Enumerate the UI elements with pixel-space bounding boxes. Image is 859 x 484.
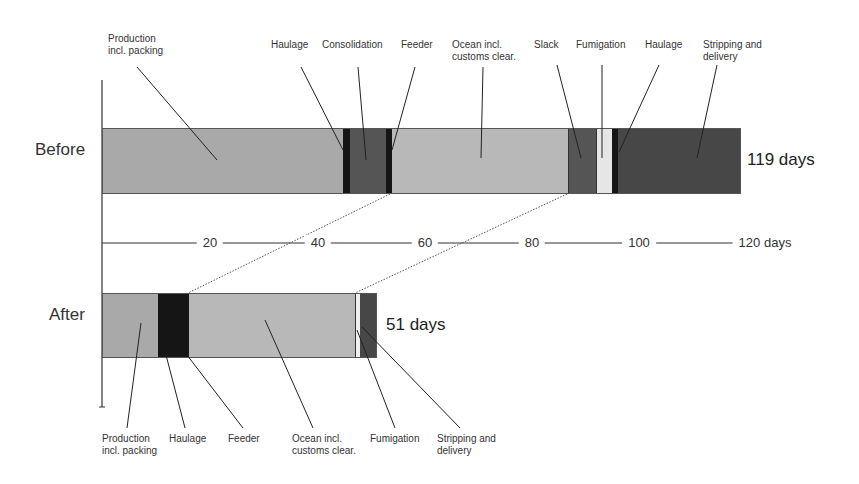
label-bottom-haulage: Haulage <box>169 433 206 445</box>
label-top-feeder: Feeder <box>401 39 433 51</box>
label-top-haulage: Haulage <box>271 39 308 51</box>
label-top-ocean: Ocean incl. customs clear. <box>452 39 516 63</box>
label-bottom-ocean: Ocean incl. customs clear. <box>292 433 356 457</box>
label-top-haulage-2: Haulage <box>645 39 682 51</box>
label-top-stripping: Stripping and delivery <box>703 39 762 63</box>
leader-lines <box>0 0 859 484</box>
label-top-slack: Slack <box>534 39 558 51</box>
label-top-fumigation: Fumigation <box>576 39 625 51</box>
label-bottom-fumigation: Fumigation <box>370 433 419 445</box>
label-bottom-production: Production incl. packing <box>102 433 157 457</box>
label-bottom-feeder: Feeder <box>228 433 260 445</box>
label-top-production: Production incl. packing <box>108 33 163 57</box>
label-bottom-stripping: Stripping and delivery <box>437 433 496 457</box>
label-top-consolidation: Consolidation <box>322 39 383 51</box>
